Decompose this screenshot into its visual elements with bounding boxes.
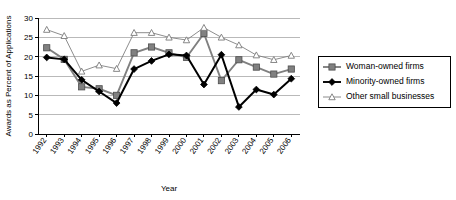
- line-chart: 051015202530 199219931994199519961997199…: [0, 0, 456, 200]
- data-point-marker: [131, 66, 138, 73]
- data-point-marker: [329, 64, 335, 70]
- y-axis-tick-label: 20: [24, 53, 33, 62]
- y-axis-title: Awards as Percent of Applications: [4, 16, 13, 137]
- x-axis-tick-label: 2005: [258, 136, 276, 156]
- x-axis-tick-label: 1995: [83, 136, 101, 156]
- y-axis-tick-label: 10: [24, 91, 33, 100]
- x-axis-tick-label: 2001: [188, 136, 206, 156]
- legend-label: Minority-owned firms: [346, 76, 424, 86]
- x-axis-tick-label: 2004: [240, 136, 258, 156]
- data-point-marker: [271, 71, 277, 77]
- data-point-marker: [148, 58, 155, 65]
- chart-legend: Woman-owned firmsMinority-owned firmsOth…: [318, 56, 450, 107]
- data-point-marker: [201, 24, 207, 30]
- data-point-marker: [79, 84, 85, 90]
- x-axis-tick-label: 1998: [136, 136, 154, 156]
- y-axis-tick-labels: 051015202530: [24, 14, 33, 139]
- x-axis-tick-label: 1992: [31, 136, 49, 156]
- x-axis-title: Year: [161, 184, 178, 193]
- data-point-marker: [44, 45, 50, 51]
- x-axis-tick-label: 1996: [101, 136, 119, 156]
- legend-label: Other small businesses: [346, 91, 434, 101]
- x-axis-tick-label: 2003: [223, 136, 241, 156]
- x-axis-tick-label: 2006: [275, 136, 293, 156]
- data-point-marker: [78, 68, 84, 74]
- data-point-marker: [288, 66, 294, 72]
- data-point-marker: [236, 57, 242, 63]
- y-axis-tick-label: 15: [24, 72, 33, 81]
- x-axis-tick-label: 1999: [153, 136, 171, 156]
- y-axis-tick-label: 5: [29, 111, 34, 120]
- data-point-marker: [43, 54, 50, 61]
- data-point-marker: [236, 42, 242, 48]
- data-point-marker: [44, 26, 50, 32]
- x-axis-tick-label: 1997: [118, 136, 136, 156]
- x-axis-tick-label: 2002: [205, 136, 223, 156]
- data-point-marker: [201, 30, 207, 36]
- data-point-marker: [96, 62, 102, 68]
- data-point-marker: [61, 33, 67, 39]
- series-2: [43, 51, 294, 110]
- data-point-marker: [253, 52, 259, 58]
- chart-figure: 051015202530 199219931994199519961997199…: [0, 0, 456, 200]
- data-point-marker: [131, 50, 137, 56]
- data-point-marker: [288, 52, 294, 58]
- x-axis-tick-label: 1993: [48, 136, 66, 156]
- y-axis-tick-label: 0: [29, 130, 34, 139]
- data-point-marker: [148, 44, 154, 50]
- x-axis-tick-label: 2000: [171, 136, 189, 156]
- gridlines: [38, 18, 300, 115]
- y-axis-tick-label: 30: [24, 14, 33, 23]
- data-point-marker: [218, 78, 224, 84]
- x-axis-tick-label: 1994: [66, 136, 84, 156]
- y-axis-tick-label: 25: [24, 33, 33, 42]
- data-point-marker: [253, 64, 259, 70]
- x-axis-tick-labels: 1992199319941995199619971998199920002001…: [31, 136, 293, 156]
- legend-label: Woman-owned firms: [346, 61, 424, 71]
